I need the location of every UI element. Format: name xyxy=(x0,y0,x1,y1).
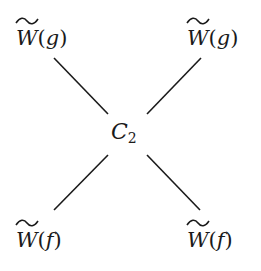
argument: g xyxy=(46,26,59,50)
w-tilde-label: W (f) xyxy=(187,230,233,251)
tilde-icon xyxy=(15,17,39,25)
tilde-icon xyxy=(15,219,39,227)
w-tilde-label: W (g) xyxy=(187,28,238,49)
argument: f xyxy=(217,228,225,252)
node-bottom-left: W (f) xyxy=(16,230,62,251)
edge-bottom-left xyxy=(54,155,108,210)
w-symbol: W xyxy=(16,230,38,251)
w-symbol: W xyxy=(187,28,209,49)
edge-top-right xyxy=(147,58,201,114)
node-top-left: W (g) xyxy=(16,28,67,49)
w-symbol: W xyxy=(16,28,38,49)
argument: f xyxy=(46,228,54,252)
w-tilde-label: W (g) xyxy=(16,28,67,49)
subscript: 2 xyxy=(128,130,137,146)
w-symbol: W xyxy=(187,230,209,251)
center-node-c2: C2 xyxy=(111,121,137,145)
tilde-icon xyxy=(186,219,210,227)
w-tilde-label: W (f) xyxy=(16,230,62,251)
argument: g xyxy=(217,26,230,50)
node-top-right: W (g) xyxy=(187,28,238,49)
edge-top-left xyxy=(54,58,108,114)
tilde-icon xyxy=(186,17,210,25)
edge-bottom-right xyxy=(147,155,200,210)
node-bottom-right: W (f) xyxy=(187,230,233,251)
